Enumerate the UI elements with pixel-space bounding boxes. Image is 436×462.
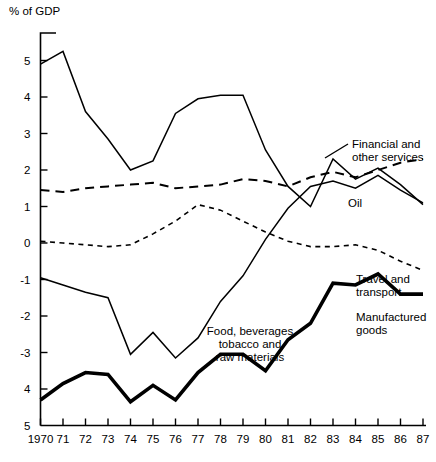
x-tick-label: 80 (259, 433, 272, 445)
oil-label: Oil (348, 197, 362, 209)
y-axis-title: % of GDP (9, 5, 60, 17)
x-tick-label: 79 (237, 433, 250, 445)
x-tick-label: 75 (147, 433, 160, 445)
x-tick-label: 84 (349, 433, 362, 445)
chart-annotation-layer: Financial andother servicesOilTravel and… (207, 138, 426, 363)
chart-plot-area: 543210-1-2-345% of GDP197071727374757677… (0, 0, 436, 462)
x-tick-label: 72 (79, 433, 92, 445)
x-tick-label: 1970 (28, 433, 54, 445)
y-tick-label: 2 (24, 164, 30, 176)
y-tick-label: -1 (20, 274, 30, 286)
y-tick-label: 0 (24, 237, 30, 249)
y-axis-line (41, 33, 57, 426)
x-tick-label: 73 (102, 433, 115, 445)
x-tick-label: 77 (192, 433, 205, 445)
x-tick-label: 74 (124, 433, 137, 445)
y-tick-label: 3 (24, 128, 30, 140)
y-tick-label: 5 (24, 420, 30, 432)
x-tick-label: 83 (327, 433, 340, 445)
series-financial-and (41, 159, 424, 192)
x-tick-label: 86 (394, 433, 407, 445)
y-tick-label: 4 (24, 383, 31, 395)
y-tick-label: -2 (20, 310, 30, 322)
y-tick-label: 1 (24, 201, 30, 213)
financial-services-label: Financial andother services (352, 138, 424, 163)
y-tick-label: 4 (24, 91, 31, 103)
x-tick-label: 85 (372, 433, 385, 445)
x-tick-label: 87 (417, 433, 430, 445)
x-tick-label: 78 (214, 433, 227, 445)
x-tick-label: 76 (169, 433, 182, 445)
manufactured-goods-label: Manufacturedgoods (356, 311, 426, 336)
x-tick-label: 82 (304, 433, 317, 445)
x-tick-label: 81 (282, 433, 295, 445)
y-tick-label: 5 (24, 55, 30, 67)
series-travel-and (41, 205, 424, 271)
food-beverages-label: Food, beveragestobacco andraw materials (207, 325, 294, 363)
chart-container: 543210-1-2-345% of GDP197071727374757677… (0, 0, 436, 462)
financial-leader-line (325, 144, 348, 158)
x-tick-label: 71 (57, 433, 70, 445)
y-tick-label: -3 (20, 347, 30, 359)
